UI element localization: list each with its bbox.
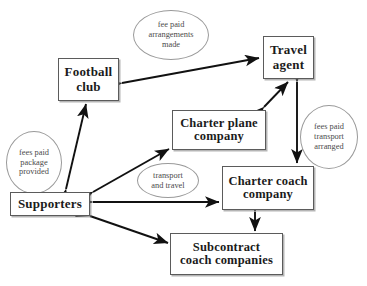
node-charter-coach-company[interactable]: Charter coach company bbox=[222, 166, 314, 210]
node-football-club-line1: Football bbox=[65, 64, 113, 79]
node-travel-agent-line2: agent bbox=[273, 57, 304, 72]
node-football-club-line2: club bbox=[76, 79, 101, 94]
edge-charter-plane-travel-agent bbox=[264, 82, 288, 107]
node-supporters[interactable]: Supporters bbox=[10, 192, 90, 216]
node-subcontract-coach-companies-line1: Subcontract bbox=[193, 240, 260, 254]
diagram-canvas: Football club Travel agent Charter plane… bbox=[0, 0, 367, 286]
node-charter-coach-company-line1: Charter coach bbox=[228, 174, 307, 188]
edge-supporters-football-club bbox=[66, 104, 86, 189]
edge-supporters-subcontract-coaches bbox=[90, 216, 168, 243]
node-travel-agent-line1: Travel bbox=[270, 42, 307, 57]
node-subcontract-coach-companies[interactable]: Subcontract coach companies bbox=[170, 233, 283, 275]
node-charter-plane-company[interactable]: Charter plane company bbox=[172, 110, 266, 150]
node-charter-plane-company-line1: Charter plane bbox=[180, 116, 258, 130]
node-subcontract-coach-companies-line2: coach companies bbox=[180, 253, 273, 267]
edge-football-club-travel-agent bbox=[122, 58, 259, 83]
node-football-club[interactable]: Football club bbox=[58, 58, 119, 101]
node-travel-agent[interactable]: Travel agent bbox=[263, 36, 314, 79]
edge-supporters-charter-plane bbox=[93, 149, 169, 192]
node-charter-coach-company-line2: company bbox=[243, 187, 293, 201]
node-charter-plane-company-line2: company bbox=[194, 129, 244, 143]
node-supporters-label: Supporters bbox=[18, 197, 82, 211]
